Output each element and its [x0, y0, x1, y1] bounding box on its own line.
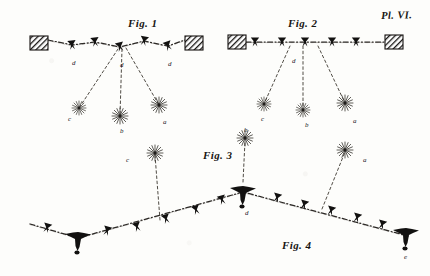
knot-center	[230, 186, 256, 209]
plate-drawing	[0, 0, 430, 276]
point-label-b: b	[244, 127, 248, 134]
main-line-shadow	[30, 193, 408, 239]
point-label-d: d	[120, 62, 124, 69]
point-label-a: a	[353, 118, 357, 125]
burst-icon	[147, 145, 163, 161]
marker-arrow	[191, 204, 202, 215]
point-label-d: d	[72, 60, 76, 67]
figure-fig3	[237, 130, 253, 182]
anchor-left	[228, 35, 246, 49]
marker-arrow	[217, 194, 228, 205]
branch-a	[318, 46, 345, 103]
burst-icon	[72, 101, 86, 115]
anchor-right	[385, 35, 403, 49]
point-label-d: d	[292, 58, 296, 65]
burst-icon	[337, 142, 353, 158]
knot-right	[393, 228, 419, 251]
knot-body	[65, 232, 91, 251]
branch-c	[264, 46, 290, 104]
knot-weight	[402, 246, 407, 250]
branch-a	[322, 152, 345, 209]
marker-arrow	[132, 221, 143, 232]
knot-weight	[239, 204, 244, 208]
burst-icon	[112, 108, 128, 124]
point-label-c: c	[261, 116, 265, 123]
point-label-a: a	[163, 119, 167, 126]
knot-weight	[74, 250, 79, 254]
figure-label-fig4: Fig. 4	[282, 240, 311, 251]
figure-fig2	[228, 35, 403, 117]
point-label-d: d	[245, 210, 249, 217]
point-label-b: b	[305, 122, 309, 129]
point-label-d: d	[168, 61, 172, 68]
burst-icon	[257, 97, 271, 111]
burst-icon	[296, 103, 310, 117]
knot-left	[65, 232, 91, 255]
figure-label-fig3: Fig. 3	[203, 150, 232, 161]
plate-number-label: Pl. VI.	[381, 10, 412, 21]
point-label-a: a	[363, 157, 367, 164]
branch-c	[79, 49, 118, 108]
figure-label-fig2: Fig. 2	[288, 18, 317, 29]
point-label-e: e	[404, 254, 408, 261]
point-label-c: c	[126, 157, 130, 164]
knot-body	[393, 228, 419, 247]
anchor-left	[30, 36, 48, 50]
point-label-c: c	[68, 116, 72, 123]
marker-arrow	[163, 40, 174, 51]
figure-fig1	[30, 36, 203, 124]
branch-c	[155, 155, 160, 220]
branch-b	[243, 141, 245, 182]
anchor-right	[185, 36, 203, 50]
point-label-b: b	[120, 128, 124, 135]
burst-icon	[151, 97, 167, 113]
branch-a	[126, 48, 159, 105]
knot-body	[230, 186, 256, 205]
main-line	[30, 192, 408, 238]
burst-icon	[337, 95, 353, 111]
branch-b	[120, 49, 122, 116]
marker-arrow	[139, 36, 149, 47]
marker-arrow	[326, 205, 336, 216]
figure-label-fig1: Fig. 1	[128, 18, 157, 29]
